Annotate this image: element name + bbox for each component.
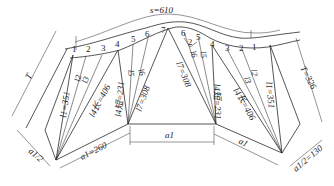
small-arc-label: 2 [188, 37, 192, 47]
point-label: 1 [72, 44, 77, 54]
point-label: 6 [145, 29, 150, 39]
point-label: 5 [131, 34, 136, 44]
l5-right-label: l5 [198, 51, 209, 59]
T-left-label: T [23, 71, 35, 81]
point-label: 2 [86, 44, 91, 54]
l6-right-label: l6 [188, 49, 200, 59]
l3-right-label: l3 [242, 75, 254, 85]
l4-long-right-label: l4长=406 [231, 86, 258, 122]
T-left-dimension [12, 31, 56, 116]
half-a1-left-label: a1/2 [27, 146, 46, 164]
point-label: 3 [225, 43, 230, 53]
half-a1-right-label: a1/2=130 [291, 143, 325, 174]
point-label: 6 [181, 28, 186, 38]
point-label: 5 [196, 32, 201, 42]
T-right-label: T=326 [298, 64, 319, 91]
l4-long-left-label: l4长=406 [87, 82, 113, 119]
point-label: 7 [161, 25, 166, 35]
l6-left-label: l6 [136, 67, 148, 77]
a1-left-label: a1=260 [78, 140, 108, 162]
arc-length-label: s=610 [150, 5, 174, 15]
l7-right-label: l7=308 [174, 60, 193, 89]
pattern-development-diagram: s=610 1 2 3 4 5 6 7 6 5 4 3 2 1 2 T [0, 0, 334, 186]
point-label: 1 [252, 42, 257, 52]
l1-left-label: l1=351 [58, 91, 72, 119]
point-label: 3 [101, 43, 106, 53]
l4-short-right-label: l4短=231 [212, 84, 223, 120]
a1-center-label: a1 [165, 130, 174, 140]
fan-line-5-left [128, 44, 133, 124]
point-label: 4 [115, 39, 120, 49]
l5-left-label: l5 [126, 69, 137, 76]
l1-right-label: l1=351 [264, 81, 277, 108]
l4-short-left-label: l4短=231 [113, 81, 126, 117]
